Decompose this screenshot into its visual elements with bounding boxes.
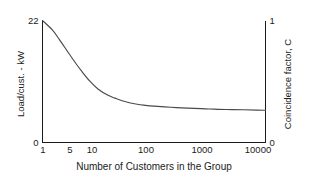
x-axis-tick-1000: 1000	[191, 144, 212, 155]
right-axis-title: Coincidence factor, C	[282, 39, 293, 129]
left-axis-tick-bottom: 0	[33, 137, 38, 148]
chart-container: 22 0 Load/cust. - kW 1 0 Coincidence fac…	[0, 0, 312, 177]
x-axis-tick-1: 1	[40, 144, 45, 155]
data-curve-load-per-customer	[43, 21, 266, 111]
x-axis-tick-100: 100	[138, 144, 154, 155]
chart-plot-area: 22 0 Load/cust. - kW 1 0 Coincidence fac…	[0, 0, 312, 177]
x-axis-tick-10000: 10000	[245, 144, 271, 155]
x-axis-tick-10: 10	[87, 144, 98, 155]
left-axis-tick-top: 22	[28, 15, 39, 26]
right-axis-tick-top: 1	[270, 15, 275, 26]
x-axis-title: Number of Customers in the Group	[76, 161, 232, 172]
left-axis-title: Load/cust. - kW	[15, 51, 26, 117]
x-axis-tick-5: 5	[67, 144, 72, 155]
